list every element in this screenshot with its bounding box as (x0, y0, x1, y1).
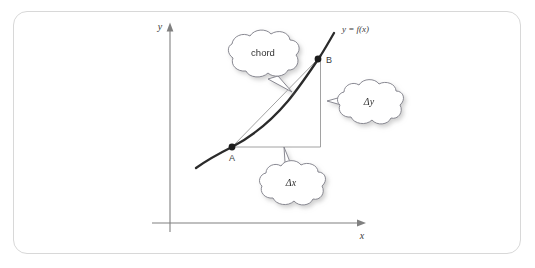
chord-callout-label: chord (251, 47, 275, 58)
curve-label: y = f(x) (341, 24, 369, 34)
point-b-group: B (315, 55, 332, 65)
delta-y-callout-label: Δy (363, 96, 375, 107)
x-axis-arrowhead (357, 220, 366, 227)
y-axis-arrowhead (167, 23, 174, 32)
x-axis-label: x (359, 230, 365, 241)
diagram-canvas: y x y = f(x) A B (0, 0, 535, 268)
chord-callout-tail (268, 76, 292, 92)
diagram-page: y x y = f(x) A B (0, 0, 535, 268)
y-axis-label: y (157, 21, 163, 32)
callout-delta-y: Δy (327, 80, 403, 124)
point-a-group: A (229, 144, 236, 163)
delta-x-callout-label: Δx (285, 177, 297, 188)
point-b-marker (315, 56, 322, 63)
delta-x-callout-tail (284, 147, 290, 162)
point-a-marker (229, 144, 236, 151)
point-b-label: B (326, 55, 332, 65)
point-a-label: A (229, 153, 235, 163)
callout-delta-x: Δx (259, 147, 325, 205)
callout-chord: chord (228, 30, 299, 92)
